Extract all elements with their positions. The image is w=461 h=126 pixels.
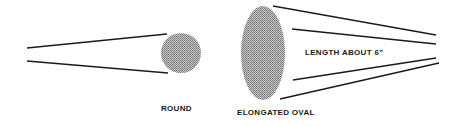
- round-lower-line: [27, 61, 168, 73]
- oval-line-4: [280, 63, 439, 99]
- round-shape-group: [27, 33, 201, 73]
- length-annotation: LENGTH ABOUT 6": [305, 48, 383, 57]
- round-upper-line: [27, 34, 167, 48]
- oval-label: ELONGATED OVAL: [237, 108, 315, 117]
- round-circle: [161, 33, 201, 73]
- diagram-canvas: [0, 0, 461, 126]
- oval-line-1: [273, 6, 436, 35]
- round-label: ROUND: [161, 104, 192, 113]
- elongated-oval: [241, 6, 285, 100]
